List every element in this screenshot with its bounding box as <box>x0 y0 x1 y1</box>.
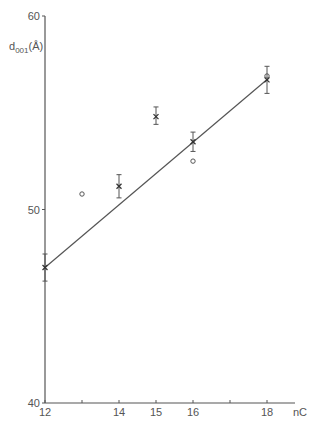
axis-labels: 4050601214151618nCd001(Å) <box>9 10 307 418</box>
chart: 4050601214151618nCd001(Å) <box>0 0 318 434</box>
cross-marker <box>43 254 48 281</box>
regression-line <box>45 78 269 268</box>
cross-marker <box>191 132 196 151</box>
cross-marker <box>117 175 122 198</box>
fit-line <box>45 78 269 268</box>
y-tick-label: 60 <box>28 10 40 22</box>
axes <box>42 16 295 403</box>
circle-marker <box>80 192 84 196</box>
x-tick-label: 15 <box>150 406 162 418</box>
cross-marker <box>265 66 270 93</box>
y-tick-label: 50 <box>28 204 40 216</box>
cross-marker <box>154 107 159 124</box>
x-tick-label: 16 <box>187 406 199 418</box>
circle-marker <box>191 159 195 163</box>
x-axis-label: nC <box>293 406 307 418</box>
x-tick-label: 14 <box>113 406 125 418</box>
x-tick-label: 12 <box>39 406 51 418</box>
y-axis-label: d001(Å) <box>9 40 43 55</box>
x-tick-label: 18 <box>261 406 273 418</box>
